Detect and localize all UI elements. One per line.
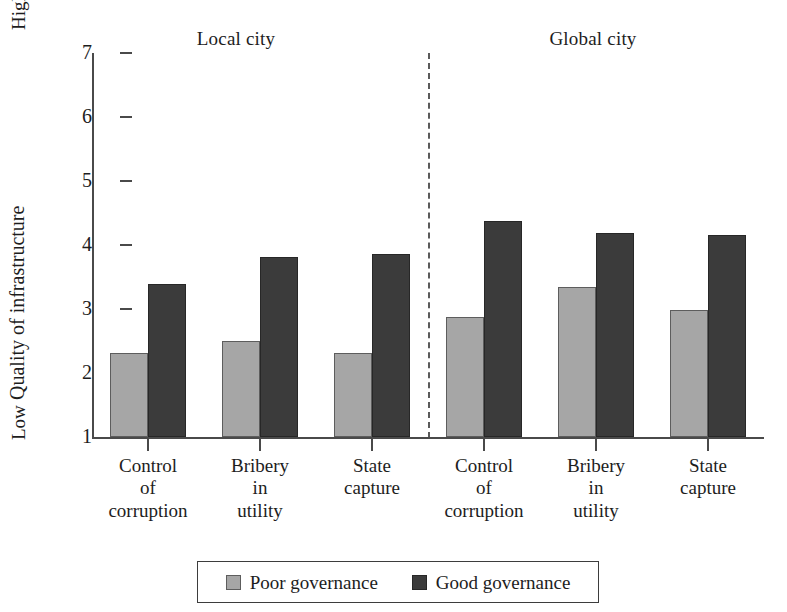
x-tick-label-0: Control of corruption xyxy=(88,455,208,522)
y-tick-label-2: 2 xyxy=(66,362,92,382)
x-tick-5 xyxy=(707,439,709,451)
y-tick-7 xyxy=(120,52,132,54)
x-tick-4 xyxy=(595,439,597,451)
y-tick-6 xyxy=(120,116,132,118)
bar-good-0 xyxy=(148,284,186,437)
bar-poor-0 xyxy=(110,353,148,437)
y-tick-3 xyxy=(120,308,132,310)
y-axis-line xyxy=(92,53,94,438)
bar-good-2 xyxy=(372,254,410,437)
y-axis-high-label: High xyxy=(8,0,30,30)
y-tick-label-7: 7 xyxy=(66,42,92,62)
x-tick-label-5: State capture xyxy=(648,455,768,500)
legend-item-poor-governance: Poor governance xyxy=(226,573,378,592)
legend-label-good: Good governance xyxy=(436,573,571,592)
y-tick-label-4: 4 xyxy=(66,234,92,254)
y-axis-ticks: 1234567 xyxy=(40,0,92,612)
legend-swatch-icon-poor xyxy=(226,575,241,590)
x-tick-0 xyxy=(147,439,149,451)
x-tick-1 xyxy=(259,439,261,451)
legend-item-good-governance: Good governance xyxy=(412,573,571,592)
y-tick-label-5: 5 xyxy=(66,170,92,190)
y-axis-low-label: Low xyxy=(8,405,30,440)
y-axis-title: Quality of infrastructure xyxy=(6,206,29,400)
legend-label-poor: Poor governance xyxy=(250,573,378,592)
y-tick-label-6: 6 xyxy=(66,106,92,126)
legend-swatch-icon-good xyxy=(412,575,427,590)
x-tick-label-1: Bribery in utility xyxy=(200,455,320,522)
y-tick-5 xyxy=(120,180,132,182)
bar-poor-4 xyxy=(558,287,596,437)
panel-title-local: Local city xyxy=(156,28,316,50)
bar-good-1 xyxy=(260,257,298,437)
bar-good-5 xyxy=(708,235,746,437)
bar-chart-figure: Local city Global city 1234567 High Low … xyxy=(0,0,787,612)
bar-good-3 xyxy=(484,221,522,437)
x-tick-3 xyxy=(483,439,485,451)
panel-title-global: Global city xyxy=(508,28,678,50)
y-tick-label-1: 1 xyxy=(66,426,92,446)
x-tick-2 xyxy=(371,439,373,451)
y-tick-label-3: 3 xyxy=(66,298,92,318)
chart-legend: Poor governance Good governance xyxy=(197,561,599,603)
y-tick-4 xyxy=(120,244,132,246)
bar-poor-5 xyxy=(670,310,708,437)
panel-divider-dashed-line xyxy=(428,53,430,438)
x-tick-label-3: Control of corruption xyxy=(424,455,544,522)
x-tick-label-4: Bribery in utility xyxy=(536,455,656,522)
x-tick-label-2: State capture xyxy=(312,455,432,500)
bar-poor-2 xyxy=(334,353,372,437)
bar-good-4 xyxy=(596,233,634,437)
bar-poor-1 xyxy=(222,341,260,437)
x-axis-line xyxy=(92,437,764,439)
bar-poor-3 xyxy=(446,317,484,437)
